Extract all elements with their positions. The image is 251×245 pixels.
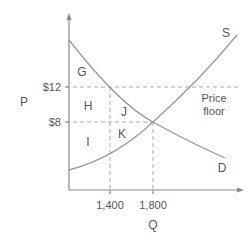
area-i: I xyxy=(86,135,89,149)
x-axis-label: Q xyxy=(148,218,157,232)
supply-label: S xyxy=(222,26,230,40)
supply-demand-chart: $12 $8 1,400 1,800 P Q S D Price floor G… xyxy=(0,0,251,245)
area-h: H xyxy=(84,99,93,113)
x-axis-arrow-icon xyxy=(237,188,244,193)
x-tick-1800: 1,800 xyxy=(139,199,167,211)
area-j: J xyxy=(121,105,127,119)
y-tick-8: $8 xyxy=(49,116,61,128)
ticks xyxy=(65,87,153,194)
y-tick-12: $12 xyxy=(43,81,61,93)
area-k: K xyxy=(118,127,126,141)
price-floor-label-2: floor xyxy=(203,105,225,117)
y-axis-label: P xyxy=(20,95,28,109)
area-g: G xyxy=(77,65,86,79)
price-floor-label-1: Price xyxy=(201,92,226,104)
demand-label: D xyxy=(218,161,227,175)
y-axis-arrow-icon xyxy=(67,13,72,20)
x-tick-1400: 1,400 xyxy=(96,199,124,211)
